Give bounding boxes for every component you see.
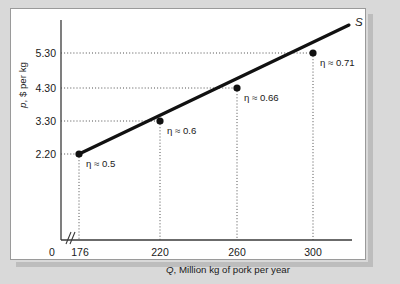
y-axis-title-text: , $ per kg [17, 62, 28, 102]
x-tick-label-0: 0 [49, 246, 55, 258]
annotation-eta-0-6: η ≈ 0.6 [167, 125, 196, 136]
supply-curve [79, 25, 349, 154]
x-tick-label-176: 176 [71, 246, 89, 258]
supply-curve-label: S [355, 16, 363, 28]
y-tick-label-2-20: 2.20 [36, 148, 57, 160]
x-tick-label-300: 300 [304, 246, 322, 258]
data-point-260 [233, 84, 240, 91]
x-axis-title-text: , Million kg of pork per year [174, 264, 291, 275]
axis-break-icon [66, 232, 75, 244]
annotation-eta-0-5: η ≈ 0.5 [86, 158, 115, 169]
data-point-220 [156, 117, 163, 124]
x-axis-title: Q, Million kg of pork per year [166, 264, 291, 275]
y-tick-label-5-30: 5.30 [36, 47, 57, 59]
supply-curve-plot: 5.30 4.30 3.30 2.20 0 176 220 260 300 η … [0, 0, 400, 284]
annotation-eta-0-71: η ≈ 0.71 [320, 57, 355, 68]
y-axis-title: p, $ per kg [17, 62, 28, 109]
data-point-300 [309, 49, 316, 56]
data-point-176 [75, 150, 82, 157]
x-tick-label-260: 260 [228, 246, 246, 258]
y-tick-label-3-30: 3.30 [36, 115, 57, 127]
y-tick-label-4-30: 4.30 [36, 82, 57, 94]
x-tick-label-220: 220 [151, 246, 169, 258]
annotation-eta-0-66: η ≈ 0.66 [244, 92, 279, 103]
chart-screenshot: 5.30 4.30 3.30 2.20 0 176 220 260 300 η … [0, 0, 400, 284]
